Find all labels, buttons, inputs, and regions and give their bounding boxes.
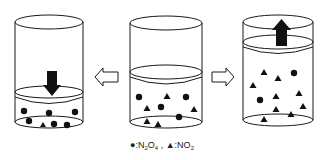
piston-down-arrow-icon — [43, 71, 61, 96]
triangle-icon: ▲ — [166, 140, 175, 150]
particles-compressed — [21, 108, 78, 128]
legend-no2-prefix: :NO — [175, 140, 191, 150]
legend: ●:N2O4 , ▲:NO2 — [0, 140, 324, 151]
arrow-right-icon — [212, 68, 234, 86]
arrow-left-icon — [95, 68, 118, 86]
legend-separator: , — [158, 140, 166, 150]
particles-initial — [136, 93, 198, 127]
piston-up-arrow-icon — [272, 19, 291, 46]
reaction-diagram — [0, 0, 324, 140]
